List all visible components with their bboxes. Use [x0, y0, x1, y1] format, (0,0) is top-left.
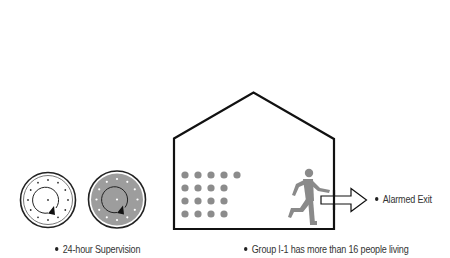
- group-text: Group I-1 has more than 16 people living: [252, 243, 409, 255]
- exit-text: Alarmed Exit: [383, 193, 432, 205]
- occupant-dots: [181, 171, 240, 217]
- bullet-icon: [55, 247, 58, 251]
- bullet-icon: [375, 197, 378, 201]
- label-group: Group I-1 has more than 16 people living: [244, 243, 409, 255]
- supervision-text: 24-hour Supervision: [63, 243, 141, 255]
- label-supervision: 24-hour Supervision: [55, 243, 140, 255]
- clock-light-icon: [21, 173, 76, 228]
- label-exit: Alarmed Exit: [375, 193, 432, 205]
- clock-dark-icon: [89, 171, 146, 228]
- bullet-icon: [244, 247, 247, 251]
- diagram-canvas: [0, 0, 450, 258]
